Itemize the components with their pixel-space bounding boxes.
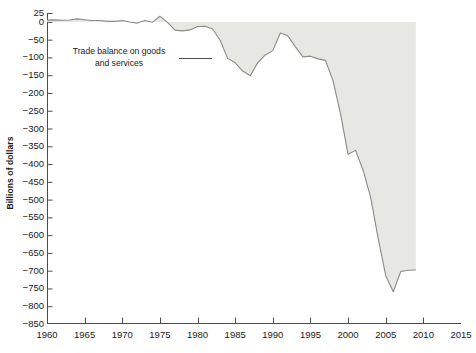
y-axis-tick-label: −700 — [0, 266, 44, 275]
y-axis-tick-label: −150 — [0, 70, 44, 79]
y-axis-tick-label: −450 — [0, 177, 44, 186]
x-axis-tick-label: 1970 — [102, 330, 142, 339]
y-axis-tick-label: 25 — [0, 8, 44, 17]
x-axis-tick-label: 1985 — [215, 330, 255, 339]
annotation-line-1: Trade balance on goods — [60, 46, 178, 58]
annotation-line-2: and services — [60, 58, 178, 70]
y-axis-tick-label: −850 — [0, 319, 44, 328]
y-axis-tick-label: 0 — [0, 17, 44, 26]
y-axis-tick-label: −650 — [0, 248, 44, 257]
y-axis-tick-label: −500 — [0, 195, 44, 204]
y-axis-tick-label: −550 — [0, 212, 44, 221]
y-axis-tick-label: −100 — [0, 52, 44, 61]
y-axis-tick-label: −50 — [0, 35, 44, 44]
y-axis-tick-label: −250 — [0, 106, 44, 115]
x-axis-tick-label: 2015 — [441, 330, 476, 339]
y-axis-tick-label: −400 — [0, 159, 44, 168]
y-axis-tick-label: −600 — [0, 230, 44, 239]
y-axis-tick-label: −300 — [0, 124, 44, 133]
x-axis-tick-label: 1990 — [253, 330, 293, 339]
y-axis-tick-label: −200 — [0, 88, 44, 97]
x-axis-tick-label: 1995 — [290, 330, 330, 339]
x-axis-tick-label: 2000 — [328, 330, 368, 339]
x-axis-tick-label: 1980 — [178, 330, 218, 339]
y-axis-tick-label: −750 — [0, 283, 44, 292]
x-axis-tick-label: 2005 — [366, 330, 406, 339]
x-axis-tick-label: 1965 — [65, 330, 105, 339]
series-annotation: Trade balance on goods and services — [60, 46, 178, 69]
y-axis-tick-label: −800 — [0, 301, 44, 310]
x-axis-tick-label: 2010 — [403, 330, 443, 339]
x-axis-tick-label: 1960 — [27, 330, 67, 339]
y-axis-tick-label: −350 — [0, 141, 44, 150]
x-axis-tick-label: 1975 — [140, 330, 180, 339]
